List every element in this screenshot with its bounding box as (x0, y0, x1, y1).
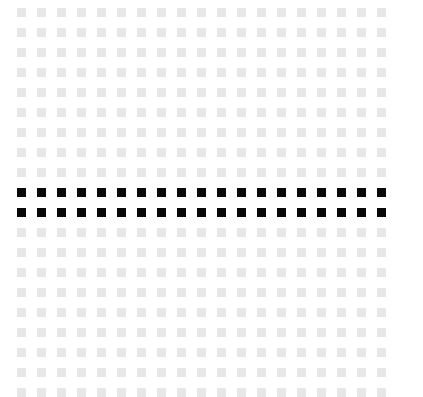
grid-cell-inactive (97, 368, 106, 377)
grid-cell-inactive (217, 328, 226, 337)
grid-cell-inactive (357, 28, 366, 37)
grid-cell-inactive (137, 148, 146, 157)
grid-cell-inactive (157, 288, 166, 297)
grid-cell-inactive (77, 368, 86, 377)
grid-cell-active (297, 208, 306, 217)
grid-cell-inactive (117, 148, 126, 157)
grid-cell-inactive (17, 288, 26, 297)
grid-cell-inactive (117, 168, 126, 177)
grid-cell-inactive (217, 68, 226, 77)
grid-cell-inactive (337, 228, 346, 237)
grid-cell-inactive (237, 108, 246, 117)
grid-cell-inactive (377, 228, 386, 237)
grid-cell-inactive (377, 368, 386, 377)
grid-row (17, 8, 423, 17)
grid-cell-active (77, 188, 86, 197)
grid-cell-inactive (37, 28, 46, 37)
grid-cell-inactive (117, 308, 126, 317)
grid-cell-active (57, 208, 66, 217)
grid-cell-active (297, 188, 306, 197)
grid-cell-inactive (97, 268, 106, 277)
grid-cell-inactive (217, 348, 226, 357)
grid-cell-inactive (317, 288, 326, 297)
grid-cell-active (37, 188, 46, 197)
grid-cell-inactive (237, 128, 246, 137)
grid-cell-inactive (157, 328, 166, 337)
grid-cell-inactive (197, 368, 206, 377)
grid-cell-inactive (197, 68, 206, 77)
grid-cell-inactive (197, 248, 206, 257)
grid-cell-inactive (57, 288, 66, 297)
grid-row (17, 228, 423, 237)
grid-cell-inactive (77, 108, 86, 117)
grid-cell-active (117, 208, 126, 217)
grid-cell-inactive (177, 88, 186, 97)
grid-cell-inactive (117, 8, 126, 17)
grid-cell-inactive (197, 108, 206, 117)
grid-cell-inactive (217, 128, 226, 137)
grid-cell-inactive (57, 108, 66, 117)
grid-cell-inactive (317, 128, 326, 137)
grid-cell-inactive (317, 268, 326, 277)
grid-cell-inactive (17, 8, 26, 17)
grid-cell-inactive (137, 348, 146, 357)
grid-cell-inactive (337, 28, 346, 37)
grid-cell-inactive (357, 248, 366, 257)
grid-cell-inactive (197, 88, 206, 97)
grid-cell-inactive (277, 268, 286, 277)
grid-cell-inactive (317, 28, 326, 37)
grid-cell-inactive (217, 368, 226, 377)
grid-cell-inactive (297, 288, 306, 297)
grid-cell-inactive (277, 128, 286, 137)
grid-cell-inactive (357, 368, 366, 377)
grid-cell-inactive (217, 268, 226, 277)
grid-cell-inactive (77, 148, 86, 157)
grid-cell-active (37, 208, 46, 217)
grid-cell-inactive (157, 368, 166, 377)
grid-cell-inactive (137, 388, 146, 397)
grid-cell-inactive (217, 88, 226, 97)
grid-cell-inactive (377, 48, 386, 57)
grid-cell-active (137, 208, 146, 217)
grid-cell-inactive (317, 148, 326, 157)
grid-cell-inactive (257, 168, 266, 177)
grid-cell-inactive (357, 228, 366, 237)
grid-cell-inactive (297, 248, 306, 257)
grid-cell-inactive (177, 248, 186, 257)
grid-cell-inactive (377, 68, 386, 77)
grid-cell-inactive (277, 288, 286, 297)
grid-cell-inactive (17, 128, 26, 137)
grid-cell-inactive (97, 308, 106, 317)
grid-cell-inactive (377, 108, 386, 117)
grid-cell-inactive (157, 348, 166, 357)
grid-cell-inactive (97, 148, 106, 157)
grid-cell-inactive (197, 388, 206, 397)
grid-cell-inactive (357, 388, 366, 397)
grid-cell-inactive (257, 88, 266, 97)
grid-cell-inactive (357, 288, 366, 297)
grid-cell-inactive (297, 8, 306, 17)
grid-cell-inactive (137, 68, 146, 77)
grid-cell-inactive (17, 108, 26, 117)
grid-cell-inactive (97, 248, 106, 257)
grid-cell-inactive (77, 128, 86, 137)
grid-cell-inactive (297, 48, 306, 57)
grid-cell-active (17, 208, 26, 217)
grid-cell-inactive (237, 368, 246, 377)
grid-cell-inactive (177, 8, 186, 17)
grid-cell-active (217, 188, 226, 197)
grid-cell-active (357, 208, 366, 217)
grid-cell-inactive (337, 288, 346, 297)
grid-cell-inactive (377, 328, 386, 337)
grid-cell-inactive (37, 148, 46, 157)
grid-cell-inactive (237, 48, 246, 57)
grid-cell-active (157, 188, 166, 197)
grid-cell-inactive (137, 128, 146, 137)
grid-cell-inactive (317, 228, 326, 237)
grid-cell-inactive (137, 8, 146, 17)
grid-cell-inactive (37, 288, 46, 297)
grid-cell-inactive (357, 48, 366, 57)
grid-row (17, 388, 423, 397)
grid-cell-inactive (377, 348, 386, 357)
